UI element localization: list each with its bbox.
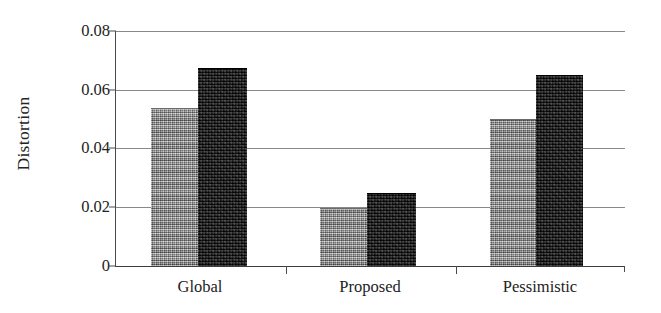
axis-baseline bbox=[116, 266, 625, 267]
x-axis-end-cap bbox=[624, 266, 625, 272]
bar-pessimistic-light bbox=[490, 119, 536, 266]
y-tick-label: 0.04 bbox=[44, 138, 110, 158]
x-tick-label-pessimistic: Pessimistic bbox=[503, 277, 577, 297]
bar-pessimistic-dark bbox=[536, 75, 583, 266]
y-axis-tick-labels: 0.08 0.06 0.04 0.02 0 bbox=[44, 0, 110, 313]
y-axis-tick-mark bbox=[109, 207, 116, 208]
y-tick-label: 0.06 bbox=[44, 80, 110, 100]
x-axis-group-separator bbox=[286, 266, 287, 274]
y-axis-tick-mark bbox=[109, 266, 116, 267]
bar-global-dark bbox=[198, 68, 247, 266]
y-axis-title-text: Distortion bbox=[14, 96, 35, 170]
y-tick-label: 0 bbox=[44, 256, 110, 276]
y-tick-label: 0.08 bbox=[44, 21, 110, 41]
bar-proposed-light bbox=[320, 208, 367, 266]
plot-area bbox=[116, 31, 625, 266]
x-tick-label-proposed: Proposed bbox=[339, 277, 400, 297]
bar-chart-figure: Distortion 0.08 0.06 0.04 0.02 0 Global … bbox=[0, 0, 661, 313]
gridline-0.08 bbox=[116, 31, 625, 32]
bar-global-light bbox=[151, 108, 198, 266]
y-axis-tick-mark bbox=[109, 31, 116, 32]
y-axis-title: Distortion bbox=[6, 0, 42, 266]
y-axis-tick-mark bbox=[109, 148, 116, 149]
x-tick-label-global: Global bbox=[178, 277, 223, 297]
y-tick-label: 0.02 bbox=[44, 197, 110, 217]
x-axis-group-separator bbox=[456, 266, 457, 274]
bar-proposed-dark bbox=[367, 193, 416, 266]
y-axis-tick-mark bbox=[109, 90, 116, 91]
